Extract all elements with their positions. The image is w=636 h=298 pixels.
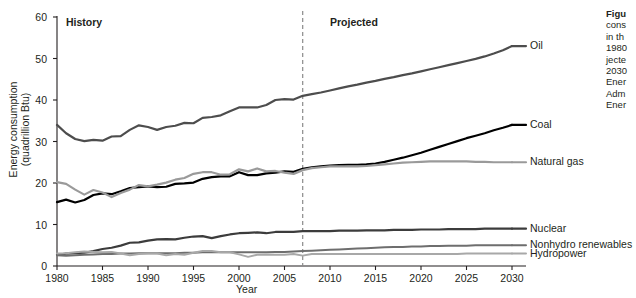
x-axis-tick-label: 2000 (219, 273, 259, 283)
caption-line: Ener (606, 99, 636, 110)
caption-lead: Figu (606, 8, 636, 19)
y-axis-label-line2: (quadrillion Btu) (19, 70, 31, 190)
chart-plot-area (0, 0, 540, 298)
caption-line: 1980 (606, 42, 636, 53)
series-label-nuclear: Nuclear (530, 223, 566, 234)
x-axis-tick-label: 1985 (83, 273, 123, 283)
figure-caption: Figu cons in th 1980 jecte 2030 Ener Adm… (606, 8, 636, 111)
series-label-natural-gas: Natural gas (530, 156, 584, 167)
annotation-projected: Projected (330, 16, 378, 28)
x-axis-tick-label: 2030 (492, 273, 532, 283)
x-axis-tick-label: 2015 (356, 273, 396, 283)
x-axis-tick-label: 1980 (37, 273, 77, 283)
figure-energy-consumption: Energy consumption (quadrillion Btu) Yea… (0, 0, 636, 298)
caption-line: jecte (606, 54, 636, 65)
caption-line: Adm (606, 88, 636, 99)
series-line-oil (57, 46, 512, 141)
y-axis-tick-label: 20 (21, 178, 47, 188)
x-axis-tick-label: 2010 (310, 273, 350, 283)
caption-line: Ener (606, 76, 636, 87)
y-axis-tick-label: 40 (21, 95, 47, 105)
caption-line: cons (606, 19, 636, 30)
y-axis-label: Energy consumption (quadrillion Btu) (8, 70, 31, 190)
series-label-coal: Coal (530, 119, 552, 130)
x-axis-label: Year (236, 283, 257, 295)
x-axis-tick-label: 2005 (265, 273, 305, 283)
y-axis-tick-label: 0 (21, 261, 47, 271)
y-axis-tick-label: 60 (21, 12, 47, 22)
annotation-history: History (66, 16, 102, 28)
x-axis-tick-label: 1995 (174, 273, 214, 283)
y-axis-tick-label: 30 (21, 137, 47, 147)
x-axis-tick-label: 2025 (447, 273, 487, 283)
y-axis-tick-label: 10 (21, 220, 47, 230)
series-line-nuclear (57, 229, 512, 255)
y-axis-tick-label: 50 (21, 54, 47, 64)
x-axis-tick-label: 2020 (401, 273, 441, 283)
caption-line: 2030 (606, 65, 636, 76)
series-line-natural-gas (57, 161, 512, 197)
x-axis-tick-label: 1990 (128, 273, 168, 283)
caption-line: in th (606, 31, 636, 42)
series-label-hydropower: Hydropower (530, 248, 587, 259)
chart-svg (0, 0, 540, 298)
y-axis-label-line1: Energy consumption (8, 70, 20, 190)
series-label-oil: Oil (530, 40, 543, 51)
